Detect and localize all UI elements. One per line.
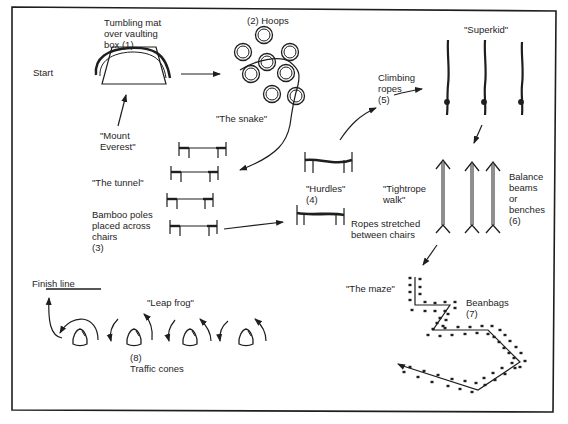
station2-label: (2) Hoops xyxy=(247,15,289,26)
tightrope-label: "Tightrope walk" xyxy=(383,183,426,205)
hoop xyxy=(235,44,252,61)
beanbag xyxy=(484,384,487,386)
beanbag xyxy=(403,371,406,373)
mount-everest-label: "Mount Everest" xyxy=(100,130,136,152)
beanbag xyxy=(524,360,527,362)
beanbag xyxy=(409,284,412,286)
beanbag xyxy=(447,313,450,315)
beanbag xyxy=(498,341,501,343)
beanbag xyxy=(451,378,454,380)
bamboo-pole-on-chairs xyxy=(179,142,226,158)
hoop xyxy=(256,27,273,44)
beanbag xyxy=(476,332,479,334)
beanbag xyxy=(451,334,454,336)
arrow-hurdles-to-ropes xyxy=(340,108,376,140)
hurdles-label: "Hurdles" (4) xyxy=(306,183,345,205)
beanbag-maze xyxy=(398,277,527,393)
beanbag xyxy=(513,357,516,359)
tunnel-poles xyxy=(167,142,226,236)
beanbag xyxy=(519,366,522,368)
hoop xyxy=(243,66,260,83)
traffic-cone xyxy=(127,329,141,346)
beanbag xyxy=(444,327,447,329)
beanbag xyxy=(471,391,474,393)
balance-beam xyxy=(465,162,479,233)
beanbag xyxy=(444,310,447,312)
beanbag xyxy=(504,334,507,336)
beanbag xyxy=(492,372,495,374)
tunnel-label: "The tunnel" xyxy=(92,177,144,188)
beanbag xyxy=(409,291,412,293)
beanbag xyxy=(419,286,422,288)
balance-beam xyxy=(486,162,500,233)
diagram-drawing xyxy=(0,0,568,424)
traffic-cone xyxy=(73,329,87,346)
traffic-cone xyxy=(183,329,197,346)
leap-frog-cones xyxy=(60,314,266,346)
beanbag xyxy=(487,333,490,335)
leap-arrow xyxy=(220,321,228,341)
beanbag xyxy=(411,309,414,311)
leap-arrow xyxy=(110,319,118,341)
beanbag xyxy=(427,334,430,336)
finish-line-label: Finish line xyxy=(32,278,75,289)
beanbag xyxy=(469,326,472,328)
beanbag xyxy=(509,340,512,342)
beanbag xyxy=(417,376,420,378)
beanbag xyxy=(439,335,442,337)
beanbag xyxy=(419,293,422,295)
beanbag xyxy=(434,302,437,304)
beanbag xyxy=(508,352,511,354)
beanbag xyxy=(439,317,442,319)
station4-label: Ropes stretched between chairs xyxy=(351,218,420,240)
beanbag xyxy=(459,388,462,390)
beanbag xyxy=(493,336,496,338)
beanbag xyxy=(432,328,435,330)
leap-arrow xyxy=(144,314,152,340)
beanbag xyxy=(475,382,478,384)
beanbag xyxy=(514,367,517,369)
vaulting-box-with-mat xyxy=(96,47,170,84)
beanbag xyxy=(491,325,494,327)
beanbag xyxy=(447,385,450,387)
station5-label: Climbing ropes (5) xyxy=(378,72,415,105)
beanbag xyxy=(457,326,460,328)
hoop xyxy=(264,86,281,103)
beanbag xyxy=(437,374,440,376)
beanbag xyxy=(409,277,412,279)
traffic-cone xyxy=(239,329,253,346)
arrow-beams-to-maze xyxy=(423,245,437,265)
leap-arrow xyxy=(168,320,175,341)
snake-label: "The snake" xyxy=(216,113,267,124)
arrow-mount-everest xyxy=(118,95,126,126)
bamboo-pole-on-chairs xyxy=(170,220,217,236)
station3-label: Bamboo poles placed across chairs (3) xyxy=(92,209,153,253)
leap-arrow xyxy=(200,319,211,341)
beanbag xyxy=(483,377,486,379)
obstacle-course-diagram: Start Tumbling mat over vaulting box (1)… xyxy=(0,0,568,424)
beanbag xyxy=(464,380,467,382)
beanbag xyxy=(436,322,439,324)
climbing-ropes xyxy=(445,40,524,115)
beanbag xyxy=(464,333,467,335)
beanbag xyxy=(499,329,502,331)
hoop xyxy=(259,54,276,71)
beanbag xyxy=(424,301,427,303)
beanbag xyxy=(419,278,422,280)
beanbag xyxy=(503,347,506,349)
beanbag xyxy=(409,366,412,368)
beanbag xyxy=(424,310,427,312)
superkid-label: "Superkid" xyxy=(464,24,508,35)
beanbag xyxy=(504,373,507,375)
beanbag xyxy=(409,299,412,301)
beanbag xyxy=(481,325,484,327)
arrow-tunnel-to-hurdles xyxy=(224,222,283,229)
arrow-ropes-to-beams xyxy=(474,125,482,143)
beanbag xyxy=(445,319,448,321)
beanbag xyxy=(454,301,457,303)
beanbag xyxy=(454,307,457,309)
beanbag xyxy=(494,379,497,381)
bamboo-pole-on-chairs xyxy=(167,193,213,209)
hoop xyxy=(278,65,295,82)
balance-beam xyxy=(436,160,450,233)
